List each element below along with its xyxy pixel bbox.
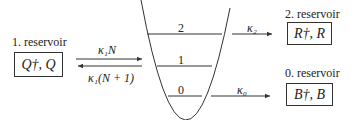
level-2-label: 2 <box>178 22 184 34</box>
level-0-label: 0 <box>178 84 184 96</box>
potential-well-curve <box>141 0 230 120</box>
level2-out-rate: κ₂ <box>247 22 257 34</box>
reservoir-1-operators: Q†, Q <box>21 57 55 73</box>
reservoir-0-label: 0. reservoir <box>285 67 340 79</box>
reservoir-1-label: 1. reservoir <box>12 36 67 48</box>
reservoir-0-box: B†, B <box>286 83 333 106</box>
reservoir-2-box: R†, R <box>287 22 332 45</box>
reservoir-2-operators: R†, R <box>294 26 325 42</box>
reservoir-2-label: 2. reservoir <box>285 8 340 20</box>
reservoir-0-operators: B†, B <box>294 87 325 103</box>
pump-out-rate: κ₁(N + 1) <box>88 72 134 84</box>
level-1-label: 1 <box>178 54 184 66</box>
level0-out-rate: κ₀ <box>237 84 247 96</box>
reservoir-1-box: Q†, Q <box>14 52 63 77</box>
pump-in-rate: κ₁N <box>98 44 116 56</box>
